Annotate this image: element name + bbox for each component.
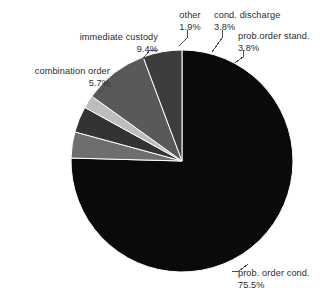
pie-label-immediate-custody-name: immediate custody	[48, 32, 158, 44]
pie-label-prob-order-cond: prob. order cond. 75.5%	[238, 268, 332, 291]
pie-label-combination-order-name: combination order	[12, 66, 110, 78]
pie-label-immediate-custody: immediate custody 9.4%	[48, 32, 158, 55]
pie-chart-figure: other 1.9% cond. discharge 3.8% prob.ord…	[0, 0, 332, 303]
pie-label-combination-order: combination order 5.7%	[12, 66, 110, 89]
pie-label-other: other 1.9%	[162, 10, 218, 33]
pie-label-combination-order-value: 5.7%	[12, 78, 110, 90]
pie-label-prob-order-stand: prob.order stand. 3.8%	[238, 31, 330, 54]
pie-label-prob-order-stand-value: 3.8%	[238, 43, 330, 55]
pie-label-other-name: other	[162, 10, 218, 22]
pie-label-other-value: 1.9%	[162, 22, 218, 34]
pie-label-cond-discharge: cond. discharge 3.8%	[214, 10, 306, 33]
pie-label-immediate-custody-value: 9.4%	[48, 44, 158, 56]
pie-label-prob-order-cond-name: prob. order cond.	[238, 268, 332, 280]
pie-label-prob-order-stand-name: prob.order stand.	[238, 31, 330, 43]
pie-label-prob-order-cond-value: 75.5%	[238, 280, 332, 292]
pie-label-cond-discharge-name: cond. discharge	[214, 10, 306, 22]
leader-line-cond-discharge	[212, 30, 222, 52]
